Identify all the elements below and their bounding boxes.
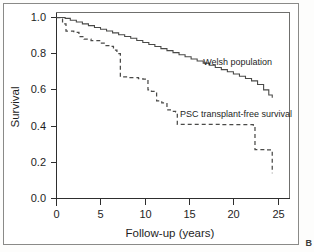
y-tick-label-0-0: 0.0 [31, 192, 46, 204]
welsh-population-label: Welsh population [203, 57, 272, 67]
y-tick-label-0-4: 0.4 [31, 120, 46, 132]
x-tick-label-5: 5 [97, 208, 103, 220]
y-tick-label-0-8: 0.8 [31, 47, 46, 59]
panel-letter: B [306, 239, 313, 248]
psc-survival-label: PSC transplant-free survival [180, 109, 292, 119]
x-tick-label-0: 0 [53, 208, 59, 220]
survival-chart: 1.0 0.8 0.6 0.4 0.2 0.0 0 5 10 15 20 25 … [0, 0, 314, 252]
y-axis-title: Survival [9, 87, 21, 128]
x-axis-ticks [57, 199, 279, 205]
x-tick-label-25: 25 [272, 208, 284, 220]
x-tick-label-10: 10 [139, 208, 151, 220]
y-axis-ticks [51, 18, 57, 199]
psc-transplant-free-survival-curve [57, 18, 273, 174]
y-tick-label-0-6: 0.6 [31, 83, 46, 95]
y-tick-label-0-2: 0.2 [31, 156, 46, 168]
x-axis-title: Follow-up (years) [126, 227, 215, 239]
figure-root: 1.0 0.8 0.6 0.4 0.2 0.0 0 5 10 15 20 25 … [0, 0, 314, 252]
y-tick-label-1-0: 1.0 [31, 11, 46, 23]
x-tick-label-15: 15 [183, 208, 195, 220]
x-tick-label-20: 20 [227, 208, 239, 220]
